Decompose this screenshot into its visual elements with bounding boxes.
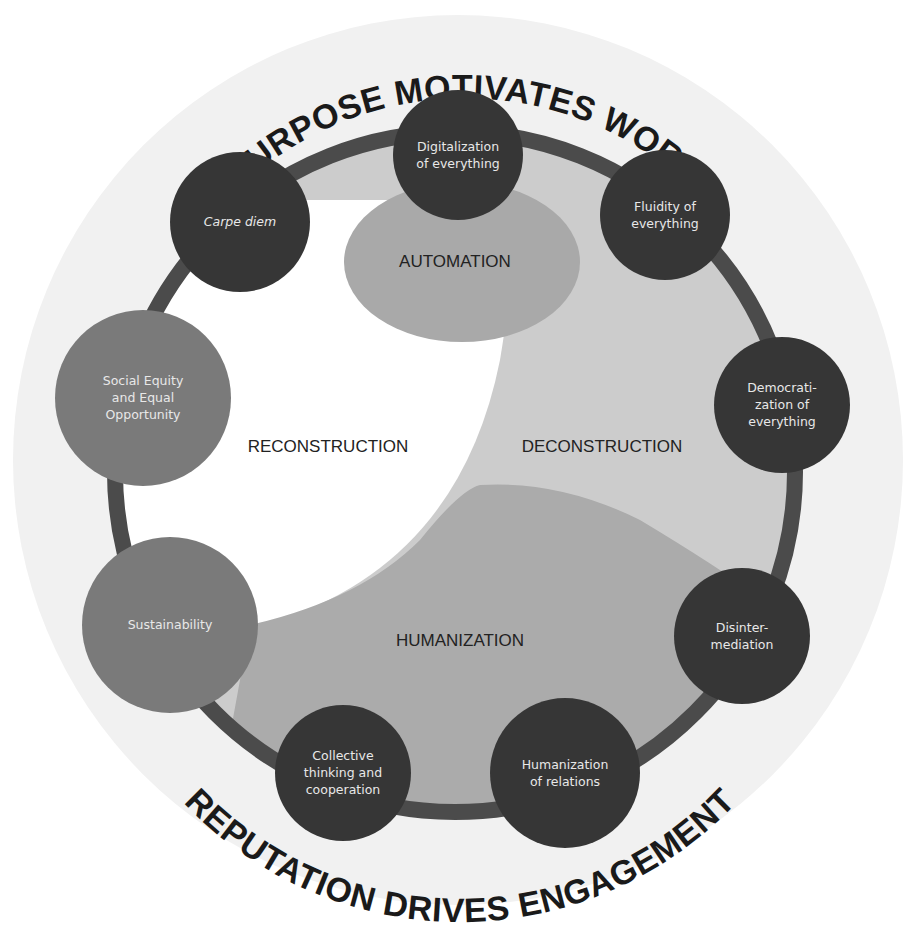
node-label: Humanization xyxy=(522,757,609,772)
node-label: Democrati- xyxy=(747,380,817,395)
node-digitalization: Digitalizationof everything xyxy=(393,90,523,220)
zone-label-humanization: HUMANIZATION xyxy=(396,631,524,650)
node-fluidity: Fluidity ofeverything xyxy=(600,150,730,280)
node-label: thinking and xyxy=(304,765,382,780)
node-label: Fluidity of xyxy=(634,199,696,214)
node-social-equity: Social Equityand EqualOpportunity xyxy=(55,310,231,486)
node-label: everything xyxy=(631,216,698,231)
node-label: everything xyxy=(748,414,815,429)
node-label: Digitalization xyxy=(417,139,499,154)
node-collective-thinking: Collectivethinking andcooperation xyxy=(275,705,411,841)
zone-label-automation: AUTOMATION xyxy=(399,252,511,271)
node-democratization: Democrati-zation ofeverything xyxy=(714,337,850,473)
node-label: Social Equity xyxy=(103,373,184,388)
node-label: mediation xyxy=(711,637,774,652)
node-label: Collective xyxy=(312,748,374,763)
zone-label-reconstruction: RECONSTRUCTION xyxy=(248,437,409,456)
node-label: and Equal xyxy=(112,390,174,405)
node-label: cooperation xyxy=(306,782,381,797)
node-label: Disinter- xyxy=(716,620,768,635)
node-carpe-diem: Carpe diem xyxy=(170,152,310,292)
purpose-reputation-cycle-diagram: PURPOSE MOTIVATES WORK REPUTATION DRIVES… xyxy=(0,0,916,933)
node-sustainability: Sustainability xyxy=(82,537,258,713)
node-label: of relations xyxy=(530,774,600,789)
zone-label-deconstruction: DECONSTRUCTION xyxy=(522,437,683,456)
node-label: zation of xyxy=(755,397,810,412)
node-humanization-relations: Humanizationof relations xyxy=(490,698,640,848)
node-disintermediation: Disinter-mediation xyxy=(674,568,810,704)
node-label: of everything xyxy=(416,156,500,171)
node-label: Opportunity xyxy=(105,407,181,422)
node-label: Sustainability xyxy=(128,617,213,632)
node-label: Carpe diem xyxy=(204,214,276,229)
